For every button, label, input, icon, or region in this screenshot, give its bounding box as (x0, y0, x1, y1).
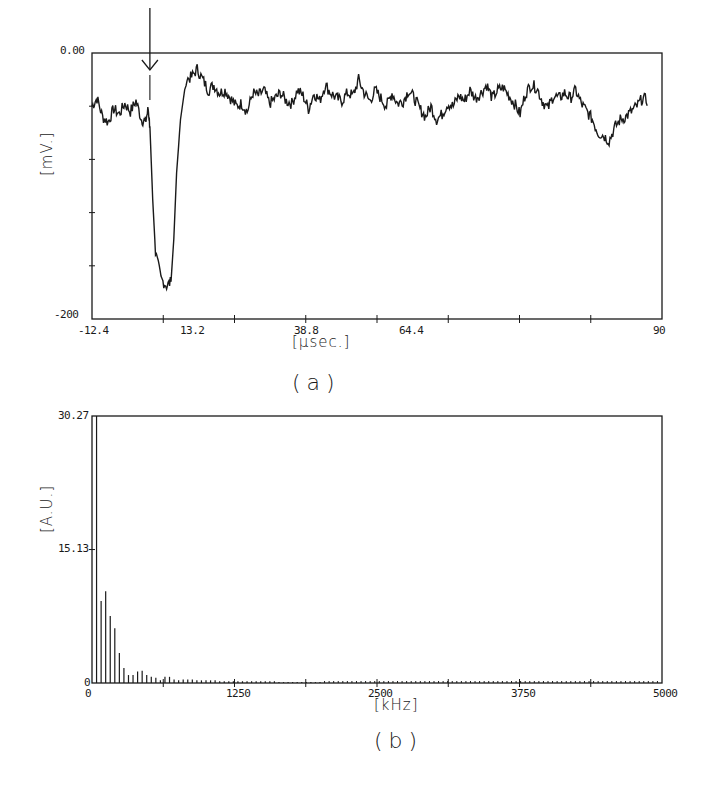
b-xtick-4: 5000 (653, 688, 678, 699)
a-caption: (a) (292, 372, 341, 394)
b-ytick-mid: 15.13 (58, 543, 89, 554)
b-ylabel: [A.U.] (40, 485, 55, 533)
a-xtick-0: -12.4 (78, 325, 109, 336)
a-ytick-top: 0.00 (60, 45, 85, 56)
a-ylabel: [mV.] (40, 132, 55, 176)
b-xtick-3: 3750 (511, 688, 536, 699)
a-ytick-bottom: -200 (54, 309, 79, 320)
b-frame (92, 416, 662, 683)
a-xtick-1: 13.2 (180, 325, 205, 336)
a-xlabel: [µsec.] (292, 335, 350, 350)
plot-a-waveform (89, 8, 662, 323)
a-xtick-3: 64.4 (399, 325, 424, 336)
a-xtick-4: 90 (653, 325, 665, 336)
a-signal-line (92, 64, 647, 289)
figure-canvas (0, 0, 713, 786)
b-caption: (b) (374, 730, 423, 752)
b-xtick-1: 1250 (226, 688, 251, 699)
b-xlabel: [kHz] (374, 698, 419, 713)
b-ytick-top: 30.27 (58, 410, 89, 421)
b-xtick-0: 0 (85, 688, 91, 699)
plot-b-spectrum (89, 416, 662, 687)
